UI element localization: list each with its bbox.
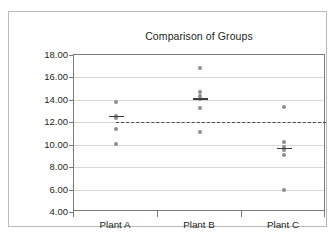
data-point [282,105,286,109]
data-point [198,130,202,134]
data-point [198,66,202,70]
reference-line [116,122,326,123]
gridline [74,190,324,191]
x-axis-tick-mark [73,211,74,217]
y-axis-tick-label: 4.00 [50,206,69,217]
data-point [282,188,286,192]
y-axis-tick-mark [69,190,73,191]
x-axis-tick-mark [324,211,325,217]
y-axis-tick-label: 10.00 [44,138,68,149]
data-point [114,100,118,104]
y-axis-tick-mark [69,145,73,146]
y-axis-tick-label: 18.00 [44,49,68,60]
x-axis-tick-mark [157,211,158,217]
y-axis-tick-label: 8.00 [50,161,69,172]
x-axis-tick-mark [241,211,242,217]
y-axis-tick-label: 16.00 [44,71,68,82]
group-mean-marker [193,98,208,100]
x-axis-ticks [73,211,325,218]
y-axis-tick-mark [69,100,73,101]
y-axis-tick-label: 12.00 [44,116,68,127]
data-point [114,142,118,146]
data-point [198,90,202,94]
chart-title: Comparison of Groups [73,30,325,42]
data-point [114,127,118,131]
x-axis-category-label: Plant A [99,219,130,230]
gridline [74,167,324,168]
y-axis-tick-label: 14.00 [44,93,68,104]
x-axis-category-label: Plant C [267,219,299,230]
gridline [74,145,324,146]
chart-card: Comparison of Groups 18.0016.0014.0012.0… [8,11,327,227]
x-axis-category-label: Plant B [183,219,215,230]
y-axis-tick-mark [69,77,73,78]
group-mean-marker [277,148,292,150]
x-axis-labels: Plant APlant BPlant C [73,219,325,235]
y-axis-labels: 18.0016.0014.0012.0010.008.006.004.00 [27,54,68,211]
y-axis-tick-mark [69,122,73,123]
y-axis-tick-mark [69,55,73,56]
y-axis-tick-label: 6.00 [50,183,69,194]
group-mean-marker [109,116,124,118]
data-point [282,153,286,157]
y-axis-tick-mark [69,167,73,168]
plot-area [73,54,325,211]
data-point [198,106,202,110]
gridline [74,77,324,78]
